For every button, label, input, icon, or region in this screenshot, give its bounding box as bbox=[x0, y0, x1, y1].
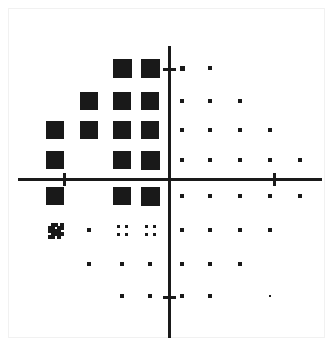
data-marker-blob bbox=[48, 223, 63, 238]
data-marker-dot bbox=[238, 262, 242, 266]
data-marker-dot bbox=[180, 158, 184, 162]
data-marker-square bbox=[46, 151, 64, 169]
data-marker-dot bbox=[87, 262, 91, 266]
data-marker-square bbox=[113, 151, 131, 169]
data-marker-square bbox=[46, 121, 64, 139]
data-marker-dot bbox=[208, 128, 212, 132]
data-marker-dot bbox=[208, 99, 212, 103]
data-marker-square bbox=[80, 121, 98, 139]
data-marker-square bbox=[141, 59, 160, 78]
data-marker-dot bbox=[238, 158, 242, 162]
data-marker-dot bbox=[238, 128, 242, 132]
x-axis-tick bbox=[63, 173, 66, 186]
data-marker-dot bbox=[238, 228, 242, 232]
data-marker-cluster bbox=[145, 225, 156, 236]
y-axis-tick bbox=[163, 296, 176, 299]
data-marker-dot bbox=[180, 99, 184, 103]
data-marker-dot bbox=[148, 262, 152, 266]
data-marker-square bbox=[113, 92, 131, 110]
data-marker-square bbox=[46, 187, 64, 205]
data-marker-square bbox=[113, 187, 131, 205]
data-marker-dot bbox=[269, 295, 271, 297]
data-marker-square bbox=[141, 121, 159, 139]
data-marker-dot bbox=[298, 194, 302, 198]
data-marker-dot bbox=[180, 228, 184, 232]
data-marker-dot bbox=[180, 194, 184, 198]
data-marker-dot bbox=[208, 228, 212, 232]
data-marker-dot bbox=[238, 99, 242, 103]
data-marker-dot bbox=[238, 194, 242, 198]
data-marker-dot bbox=[148, 294, 152, 298]
data-marker-square bbox=[141, 92, 159, 110]
data-marker-dot bbox=[268, 158, 272, 162]
data-marker-square bbox=[141, 187, 160, 206]
data-marker-dot bbox=[268, 194, 272, 198]
data-marker-dot bbox=[87, 228, 91, 232]
data-marker-dot bbox=[120, 294, 124, 298]
data-marker-dot bbox=[120, 262, 124, 266]
data-marker-dot bbox=[180, 66, 185, 71]
x-axis-tick bbox=[273, 173, 276, 186]
figure-container: Hinton-style grid diagram: marker area e… bbox=[0, 0, 334, 348]
data-marker-dot bbox=[208, 66, 212, 70]
data-marker-dot bbox=[268, 128, 272, 132]
data-marker-dot bbox=[180, 294, 184, 298]
data-marker-dot bbox=[268, 228, 272, 232]
y-axis bbox=[168, 46, 171, 338]
data-marker-square bbox=[80, 92, 98, 110]
data-marker-cluster bbox=[117, 225, 128, 236]
data-marker-square bbox=[141, 151, 160, 170]
data-marker-dot bbox=[298, 158, 302, 162]
data-marker-square bbox=[113, 121, 131, 139]
data-marker-dot bbox=[180, 262, 184, 266]
y-axis-tick bbox=[163, 68, 176, 71]
plot-area bbox=[0, 0, 334, 348]
data-marker-dot bbox=[208, 262, 212, 266]
data-marker-dot bbox=[208, 158, 212, 162]
data-marker-dot bbox=[208, 194, 212, 198]
data-marker-dot bbox=[208, 294, 212, 298]
data-marker-dot bbox=[180, 128, 184, 132]
data-marker-square bbox=[113, 59, 132, 78]
